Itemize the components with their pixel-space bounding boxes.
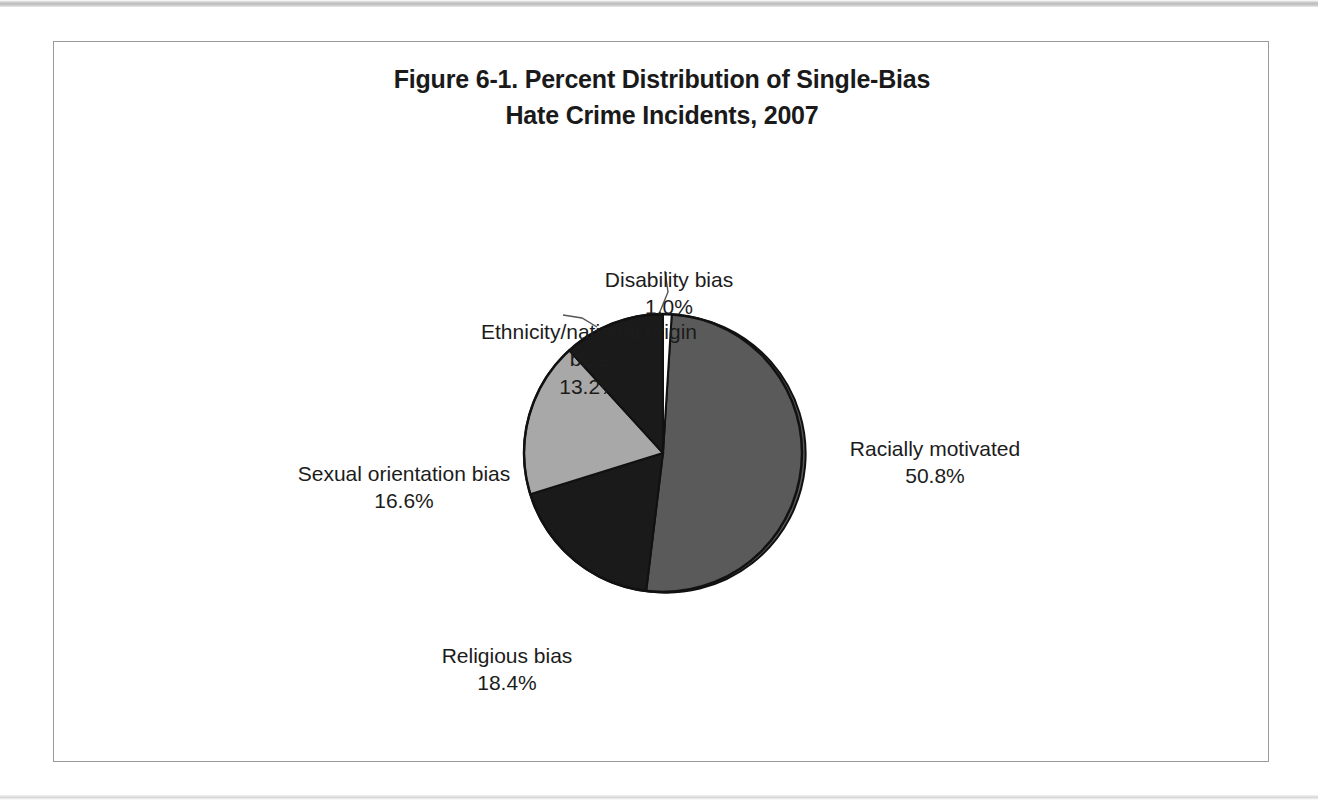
pie-label-racially-motivated: Racially motivated 50.8% xyxy=(810,407,1060,518)
scan-artifact-top xyxy=(0,0,1318,7)
pie-label-religious-value: 18.4% xyxy=(382,669,632,697)
pie-label-ethnicity-bias: Ethnicity/national origin bias 13.2% xyxy=(454,290,724,429)
pie-label-ethnicity-name: Ethnicity/national origin bias xyxy=(481,320,697,371)
pie-label-racial-name: Racially motivated xyxy=(850,437,1020,460)
pie-chart-area: Disability bias 1.0% Ethnicity/national … xyxy=(54,42,1270,763)
figure-frame: Figure 6-1. Percent Distribution of Sing… xyxy=(53,41,1269,762)
pie-label-ethnicity-value: 13.2% xyxy=(454,373,724,401)
pie-label-sexual-value: 16.6% xyxy=(254,487,554,515)
pie-label-religious-name: Religious bias xyxy=(442,644,573,667)
pie-label-disability-name: Disability bias xyxy=(605,268,733,291)
pie-label-religious-bias: Religious bias 18.4% xyxy=(382,614,632,725)
scan-artifact-bottom xyxy=(0,795,1318,800)
pie-label-sexual-orientation-bias: Sexual orientation bias 16.6% xyxy=(254,432,554,543)
pie-label-sexual-name: Sexual orientation bias xyxy=(298,462,510,485)
pie-label-racial-value: 50.8% xyxy=(810,462,1060,490)
